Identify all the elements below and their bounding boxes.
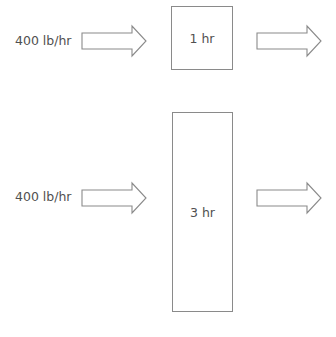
inflow-arrow-icon-1 (81, 25, 147, 57)
inflow-arrow-icon-2 (81, 182, 147, 214)
vessel-residence-time-1: 1 hr (190, 31, 215, 46)
vessel-residence-time-2: 3 hr (190, 205, 215, 220)
outflow-arrow-icon-2 (256, 182, 322, 214)
outflow-arrow-icon-1 (256, 25, 322, 57)
input-flow-label-1: 400 lb/hr (15, 33, 72, 48)
vessel-box-1: 1 hr (171, 6, 233, 70)
vessel-box-2: 3 hr (172, 112, 233, 312)
input-flow-label-2: 400 lb/hr (15, 189, 72, 204)
